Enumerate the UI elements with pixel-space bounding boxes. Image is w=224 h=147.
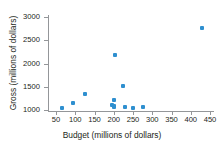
data-point (113, 53, 117, 57)
plot-area: 10001500200025003000 5010015020025030035… (0, 0, 224, 147)
x-axis-line (48, 111, 214, 112)
y-tick-mark (44, 40, 48, 41)
y-tick-mark (44, 87, 48, 88)
data-point (112, 105, 116, 109)
scatter-plot-figure: 10001500200025003000 5010015020025030035… (0, 0, 224, 147)
data-point (71, 101, 75, 105)
y-axis-title: Gross (millions of dollars) (8, 0, 18, 128)
data-point (112, 98, 116, 102)
x-tick-label: 450 (198, 116, 222, 124)
x-axis-title: Budget (millions of dollars) (0, 130, 224, 140)
y-axis-line (48, 15, 49, 111)
data-point (83, 92, 87, 96)
data-point (60, 106, 64, 110)
data-point (123, 105, 127, 109)
data-point (121, 84, 125, 88)
data-point (141, 105, 145, 109)
data-point (200, 26, 204, 30)
y-tick-mark (44, 64, 48, 65)
y-tick-mark (44, 17, 48, 18)
data-point (131, 106, 135, 110)
y-tick-mark (44, 110, 48, 111)
